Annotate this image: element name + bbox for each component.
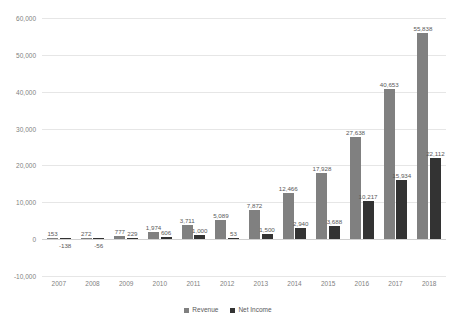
gridline [42,276,446,277]
bar-revenue-2007 [47,238,58,239]
bar-value-label: 3,688 [317,218,351,225]
bar-value-label: 153 [36,230,70,237]
bar-value-label: 22,112 [418,150,452,157]
bar-value-label: 10,217 [351,193,385,200]
y-axis-tick-label: 50,000 [16,51,36,58]
bar-value-label: 40,653 [372,81,406,88]
bar-net-income-2015 [329,226,340,240]
bar-revenue-2017 [384,89,395,239]
bar-value-label: -56 [82,242,116,249]
bar-value-label: 606 [149,229,183,236]
bar-net-income-2014 [295,228,306,239]
bar-value-label: 55,838 [406,25,440,32]
bar-value-label: 53 [216,230,250,237]
y-axis-tick-label: 20,000 [16,162,36,169]
bar-value-label: 1,500 [250,226,284,233]
x-axis-labels: 2007200820092010201120122013201420152016… [42,280,446,292]
bar-value-label: 27,638 [339,129,373,136]
bar-value-label: 15,934 [385,172,419,179]
bar-revenue-2015 [316,173,327,239]
legend-swatch-icon [184,308,189,313]
bar-value-label: 5,089 [204,212,238,219]
legend-label: Net Income [238,306,271,314]
bar-revenue-2016 [350,137,361,239]
bar-revenue-2008 [81,238,92,239]
bar-net-income-2016 [363,201,374,239]
bar-value-label: 7,872 [238,202,272,209]
bar-revenue-2014 [283,193,294,239]
legend-item-net-income[interactable]: Net Income [230,306,271,314]
bar-net-income-2008 [93,238,104,239]
bar-net-income-2010 [161,237,172,239]
bar-value-label: 1,000 [183,227,217,234]
bar-revenue-2018 [417,33,428,239]
bar-net-income-2017 [396,180,407,239]
bar-value-label: 229 [115,230,149,237]
y-axis-tick-label: -10,000 [14,273,36,280]
plot-area: 153-138272-567772291,9746063,7111,0005,0… [42,18,446,276]
y-axis-tick-label: 10,000 [16,199,36,206]
bar-groups: 153-138272-567772291,9746063,7111,0005,0… [42,18,446,276]
legend-label: Revenue [192,306,218,314]
bar-net-income-2007 [60,238,71,239]
y-axis-tick-label: 30,000 [16,125,36,132]
bar-value-label: 3,711 [170,217,204,224]
legend-swatch-icon [230,308,235,313]
y-axis-tick-label: 40,000 [16,88,36,95]
x-axis-tick-label: 2018 [409,280,449,288]
chart-legend: RevenueNet Income [0,306,456,314]
legend-item-revenue[interactable]: Revenue [184,306,218,314]
bar-value-label: 272 [69,230,103,237]
bar-net-income-2009 [127,238,138,239]
bar-net-income-2018 [430,158,441,239]
bar-value-label: -138 [48,242,82,249]
bar-net-income-2011 [194,235,205,239]
bar-net-income-2013 [262,234,273,240]
bar-value-label: 12,466 [271,185,305,192]
bar-value-label: 2,940 [284,220,318,227]
y-axis-tick-label: 60,000 [16,15,36,22]
bar-net-income-2012 [228,238,239,239]
bar-value-label: 17,928 [305,165,339,172]
bar-chart: -10,000010,00020,00030,00040,00050,00060… [0,0,456,331]
y-axis-labels: -10,000010,00020,00030,00040,00050,00060… [0,18,40,276]
